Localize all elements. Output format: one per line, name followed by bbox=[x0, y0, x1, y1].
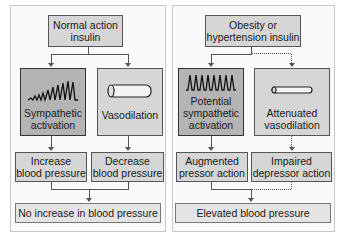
sympathetic-activation-box: Sympathetic activation bbox=[20, 68, 86, 136]
box-label: Increase bbox=[31, 155, 71, 167]
arrow-icon bbox=[248, 198, 254, 202]
box-label: pressor action bbox=[179, 167, 245, 179]
box-label: blood pressure bbox=[16, 167, 85, 179]
arrow-icon bbox=[125, 147, 131, 151]
dilated-vessel-icon bbox=[105, 83, 155, 99]
dotted-connector bbox=[252, 189, 291, 190]
connector bbox=[211, 54, 252, 55]
arrow-icon bbox=[208, 63, 214, 67]
no-increase-bp-box: No increase in blood pressure bbox=[15, 203, 161, 223]
attenuated-vasodilation-box: Attenuated vasodilation bbox=[254, 68, 330, 136]
connector bbox=[51, 189, 129, 190]
box-label: depressor action bbox=[253, 167, 331, 179]
connector bbox=[88, 47, 89, 54]
box-label: hypertension insulin bbox=[207, 31, 300, 43]
box-label: Attenuated bbox=[267, 107, 318, 119]
dotted-connector bbox=[291, 182, 292, 189]
decrease-bp-box: Decrease blood pressure bbox=[91, 152, 164, 182]
connector bbox=[128, 182, 129, 189]
narrow-vessel-icon bbox=[269, 85, 315, 95]
augmented-pressor-box: Augmented pressor action bbox=[176, 152, 248, 182]
box-label: activation bbox=[31, 119, 75, 131]
box-label: Decrease bbox=[105, 155, 150, 167]
spike-waveform-uniform-icon bbox=[184, 72, 238, 92]
connector bbox=[51, 136, 52, 147]
connector bbox=[51, 54, 129, 55]
arrow-icon bbox=[48, 63, 54, 67]
connector bbox=[128, 136, 129, 147]
connector bbox=[211, 182, 212, 189]
dotted-connector bbox=[291, 54, 292, 63]
arrow-icon bbox=[125, 63, 131, 67]
box-label: Sympathetic bbox=[24, 107, 82, 119]
spike-waveform-increasing-icon bbox=[26, 79, 80, 103]
box-label: Augmented bbox=[185, 155, 239, 167]
dotted-connector bbox=[291, 136, 292, 147]
elevated-bp-box: Elevated blood pressure bbox=[175, 203, 331, 223]
potential-sympathetic-box: Potential sympathetic activation bbox=[178, 68, 244, 136]
connector bbox=[51, 54, 52, 63]
connector bbox=[211, 189, 252, 190]
box-label: vasodilation bbox=[264, 119, 319, 131]
connector bbox=[251, 189, 252, 198]
box-label: No increase in blood pressure bbox=[18, 207, 158, 219]
arrow-icon bbox=[86, 198, 92, 202]
box-label: Vasodilation bbox=[102, 109, 158, 121]
box-label: sympathetic bbox=[183, 107, 239, 119]
dotted-connector bbox=[252, 53, 291, 54]
obesity-insulin-box: Obesity or hypertension insulin bbox=[205, 15, 301, 47]
arrow-icon bbox=[208, 147, 214, 151]
normal-insulin-box: Normal action insulin bbox=[48, 15, 123, 47]
vasodilation-box: Vasodilation bbox=[97, 68, 163, 136]
connector bbox=[211, 136, 212, 147]
box-label: insulin bbox=[71, 31, 101, 43]
box-label: Normal action bbox=[53, 19, 118, 31]
connector bbox=[128, 54, 129, 63]
connector bbox=[89, 189, 90, 198]
arrow-icon bbox=[289, 147, 295, 151]
box-label: Potential bbox=[191, 95, 232, 107]
box-label: activation bbox=[189, 119, 233, 131]
connector bbox=[211, 54, 212, 63]
box-label: Impaired bbox=[271, 155, 312, 167]
arrow-icon bbox=[289, 63, 295, 67]
increase-bp-box: Increase blood pressure bbox=[15, 152, 87, 182]
box-label: blood pressure bbox=[93, 167, 162, 179]
box-label: Obesity or bbox=[229, 19, 277, 31]
box-label: Elevated blood pressure bbox=[196, 207, 309, 219]
impaired-depressor-box: Impaired depressor action bbox=[251, 152, 332, 182]
arrow-icon bbox=[48, 147, 54, 151]
connector bbox=[51, 182, 52, 189]
